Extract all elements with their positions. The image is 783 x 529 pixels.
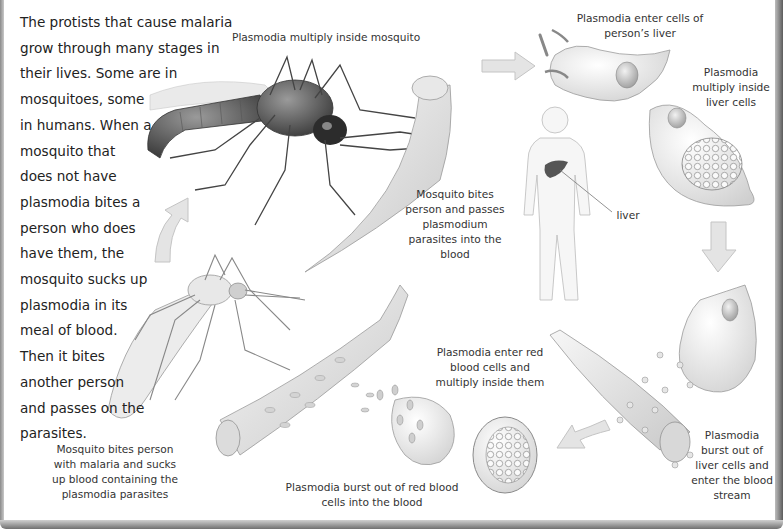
intro-line: in humans. When a [20,113,200,139]
caption-line: Plasmodia enter cells of [565,11,715,26]
intro-line: mosquitoes, some [20,87,200,113]
caption-line: liver cells and [690,458,774,473]
intro-line: plasmodia bites a [20,190,200,216]
intro-line: mosquito that [20,139,200,165]
caption-line: cells into the blood [272,495,472,510]
infected-red-cell-icon [473,417,537,493]
intro-line: The protists that cause malaria [20,10,200,36]
caption-line: plasmodium [400,217,510,232]
caption-multiply-liver: Plasmodia multiply inside liver cells [686,65,776,110]
intro-line: have them, the [20,241,200,267]
caption-line: burst out of [690,443,774,458]
burst-red-cell-icon [377,385,454,465]
caption-multiply-mosquito: Plasmodia multiply inside mosquito [232,30,412,45]
malaria-lifecycle-diagram: The protists that cause malaria grow thr… [0,0,783,529]
caption-line: multiply inside them [420,375,560,390]
page-edge-bottom [0,520,783,529]
caption-burst-red-cells: Plasmodia burst out of red blood cells i… [272,480,472,510]
caption-line: multiply inside [686,80,776,95]
page-edge-left [0,0,4,520]
caption-liver-label: liver [608,208,648,223]
caption-line: plasmodia parasites [40,487,190,502]
intro-line: and passes on the [20,396,200,422]
caption-line: with malaria and sucks [40,457,190,472]
arrow-left-icon [557,420,610,448]
intro-line: grow through many stages in [20,36,200,62]
caption-line: Plasmodia [690,428,774,443]
intro-line: meal of blood. [20,318,200,344]
arrow-right-icon [482,52,535,80]
caption-line: parasites into the [400,232,510,247]
caption-line: blood [400,247,510,262]
caption-line: Plasmodia burst out of red blood [272,480,472,495]
caption-line: Mosquito bites person [40,442,190,457]
intro-line: does not have [20,164,200,190]
caption-line: blood cells and [420,360,560,375]
intro-paragraph: The protists that cause malaria grow thr… [20,10,200,447]
caption-line: liver [608,208,648,223]
intro-line: their lives. Some are in [20,61,200,87]
caption-line: stream [690,488,774,503]
intro-line: Then it bites [20,344,200,370]
blood-vessel-icon [216,285,408,456]
caption-bite-passes: Mosquito bites person and passes plasmod… [400,187,510,262]
caption-enter-red-cells: Plasmodia enter red blood cells and mult… [420,345,560,390]
caption-line: Plasmodia multiply inside mosquito [232,30,412,45]
intro-line: person who does [20,216,200,242]
bursting-liver-cell-icon [679,285,756,392]
infected-liver-cell-icon [649,105,754,206]
caption-line: person’s liver [565,26,715,41]
caption-line: person and passes [400,202,510,217]
page-edge-right [775,0,783,521]
caption-line: Mosquito bites [400,187,510,202]
intro-line: plasmodia in its [20,293,200,319]
caption-line: liver cells [686,95,776,110]
caption-enter-liver: Plasmodia enter cells of person’s liver [565,11,715,41]
intro-line: mosquito sucks up [20,267,200,293]
caption-line: enter the blood [690,473,774,488]
caption-line: Plasmodia enter red [420,345,560,360]
caption-line: Plasmodia [686,65,776,80]
caption-line: up blood containing the [40,472,190,487]
caption-bite-sucks: Mosquito bites person with malaria and s… [40,442,190,502]
caption-burst-liver: Plasmodia burst out of liver cells and e… [690,428,774,503]
intro-line: another person [20,370,200,396]
human-body-icon [524,107,612,300]
arrow-down-icon [702,222,736,272]
